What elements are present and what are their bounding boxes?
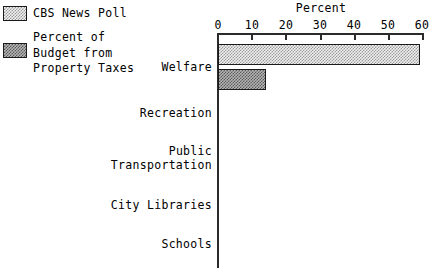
x-axis-tick bbox=[285, 34, 287, 40]
x-axis-title: Percent bbox=[218, 1, 424, 15]
plot-area: Percent 0 10 20 30 40 50 60 Welfare Recr… bbox=[0, 0, 444, 273]
x-axis-tick bbox=[354, 34, 356, 40]
x-axis-tick bbox=[422, 34, 424, 40]
x-tick-label: 30 bbox=[310, 18, 330, 32]
x-tick-label: 20 bbox=[276, 18, 296, 32]
category-label-schools: Schools bbox=[60, 238, 212, 252]
x-axis-tick bbox=[217, 34, 219, 40]
bar-welfare-property-taxes bbox=[218, 69, 266, 90]
category-label-welfare: Welfare bbox=[60, 61, 212, 75]
category-label-public-transportation: Public Transportation bbox=[60, 145, 212, 172]
x-axis-tick bbox=[251, 34, 253, 40]
x-axis-tick bbox=[320, 34, 322, 40]
bar-chart: CBS News Poll Percent of Budget from Pro… bbox=[0, 0, 444, 273]
x-tick-label: 10 bbox=[242, 18, 262, 32]
bar-welfare-cbs-news-poll bbox=[218, 44, 420, 65]
x-tick-label: 60 bbox=[412, 18, 432, 32]
x-tick-label: 50 bbox=[378, 18, 398, 32]
category-label-city-libraries: City Libraries bbox=[60, 199, 212, 213]
x-axis-tick bbox=[388, 34, 390, 40]
x-tick-label: 40 bbox=[344, 18, 364, 32]
category-label-recreation: Recreation bbox=[60, 107, 212, 121]
x-tick-label: 0 bbox=[208, 18, 228, 32]
